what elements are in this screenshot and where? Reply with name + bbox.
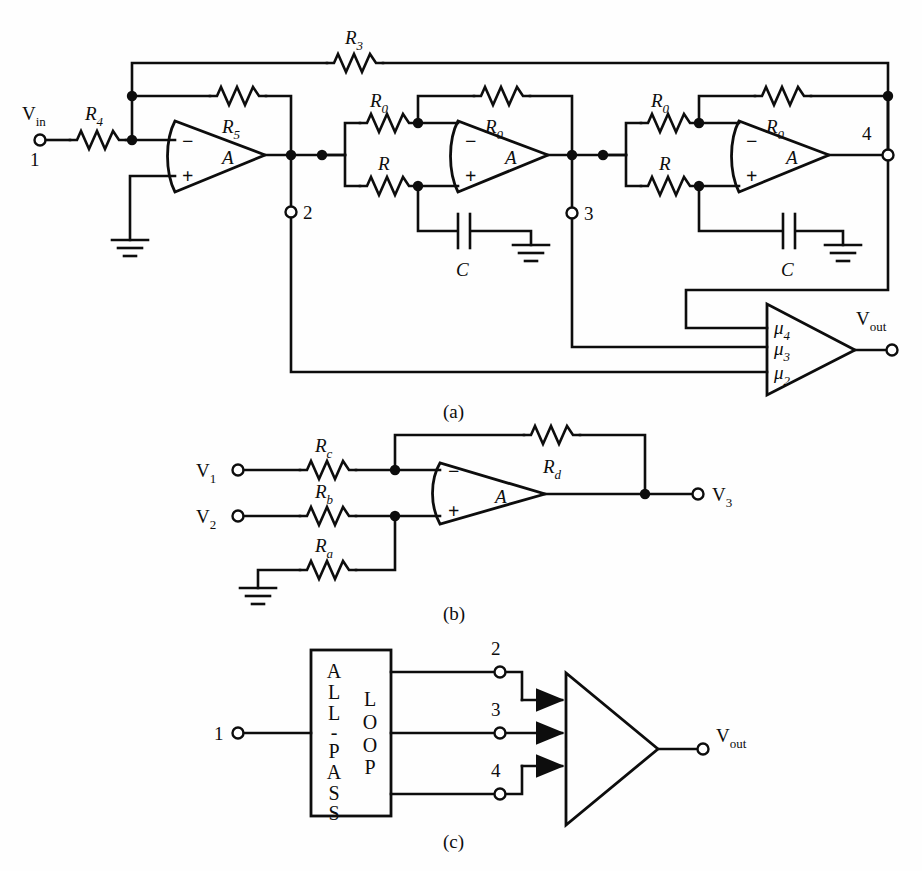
label-node-4-c: 4 [491, 760, 501, 781]
terminal-node-3-c[interactable] [495, 728, 506, 739]
terminal-v3[interactable] [693, 489, 704, 500]
input-branch: Vin 1 R4 [22, 103, 175, 170]
terminal-vout-a[interactable] [887, 345, 898, 356]
label-node-1-c: 1 [214, 723, 224, 744]
caption-a: (a) [443, 401, 464, 423]
label-node-2: 2 [303, 202, 313, 223]
label-opamp-a-b: A [493, 486, 507, 507]
svg-text:L: L [328, 681, 340, 703]
svg-text:A: A [327, 761, 342, 783]
summer-triangle-c [566, 673, 658, 825]
label-vout-a: Vout [856, 308, 887, 334]
caption-c: (c) [443, 831, 464, 853]
label-v2: V2 [196, 506, 216, 532]
opamp-minus-input: − [448, 460, 459, 482]
block-label-loop: L O O P [363, 688, 377, 778]
all-pass-loop-block[interactable] [311, 650, 391, 816]
terminal-vout-c[interactable] [698, 744, 709, 755]
label-node-4: 4 [862, 123, 872, 144]
label-vin: Vin [22, 103, 46, 129]
label-v3: V3 [712, 484, 732, 510]
svg-text:P: P [328, 740, 339, 762]
svg-text:S: S [328, 782, 339, 804]
terminal-v2[interactable] [233, 511, 244, 522]
terminal-v1[interactable] [233, 465, 244, 476]
terminal-node-2[interactable] [286, 207, 297, 218]
opamp-plus-input: + [746, 165, 757, 187]
block-label-all-pass: A L L - P A S S [327, 660, 342, 824]
label-r0-stage3: R0 [650, 90, 670, 116]
label-ra: Ra [314, 535, 334, 561]
terminal-node-4-c[interactable] [495, 789, 506, 800]
ground-symbol-b [240, 588, 276, 604]
ground-symbol-3 [825, 245, 861, 261]
capacitor-c-stage3 [783, 214, 795, 248]
stage-2: R0 R R0 − + A C [322, 87, 626, 280]
label-c-stage2: C [456, 259, 469, 280]
terminal-node-3[interactable] [567, 208, 578, 219]
capacitor-c-stage2 [458, 214, 470, 248]
panel-b: V1 Rc V2 Rb Ra − + A Rd [196, 426, 732, 625]
svg-text:S: S [328, 802, 339, 824]
r5-branch: R5 [127, 87, 291, 155]
stage-3: R0 R R0 − + A C [603, 87, 893, 280]
caption-b: (b) [443, 603, 465, 625]
label-r0-stage2: R0 [369, 90, 389, 116]
label-v1: V1 [196, 460, 216, 486]
svg-text:P: P [364, 756, 375, 778]
label-mu2: μ2 [773, 362, 791, 388]
terminal-node-1-c[interactable] [233, 728, 244, 739]
label-rb: Rb [314, 481, 334, 507]
label-opamp-a: A [784, 147, 798, 168]
label-node-3: 3 [584, 203, 594, 224]
label-vout-c: Vout [716, 725, 747, 751]
label-node-2-c: 2 [491, 638, 501, 659]
label-r-stage2: R [377, 153, 390, 174]
terminal-node-1[interactable] [35, 135, 46, 146]
opamp-minus-input: − [465, 130, 476, 152]
svg-text:O: O [363, 734, 377, 756]
label-r-stage3: R [658, 153, 671, 174]
summing-amplifier: μ4 μ3 μ2 Vout [767, 304, 898, 395]
ground-symbol-2 [513, 245, 549, 261]
opamp-plus-input: + [182, 165, 193, 187]
terminal-node-2-c[interactable] [495, 667, 506, 678]
panel-a: R3 Vin 1 R4 R5 − + A [22, 27, 898, 423]
label-rd: Rd [542, 456, 562, 482]
label-rc: Rc [314, 435, 333, 461]
label-opamp-a: A [220, 147, 234, 168]
ground-symbol-1 [112, 240, 148, 256]
label-node-1: 1 [30, 149, 40, 170]
opamp-minus-input: − [182, 130, 193, 152]
label-node-3-c: 3 [491, 699, 501, 720]
label-opamp-a: A [503, 147, 517, 168]
junction-dot [640, 489, 650, 499]
circuit-diagram-svg: R3 Vin 1 R4 R5 − + A [0, 0, 922, 871]
svg-text:A: A [327, 660, 342, 682]
label-r4: R4 [84, 103, 104, 129]
opamp-plus-input: + [448, 500, 459, 522]
svg-text:L: L [364, 688, 376, 710]
svg-text:O: O [363, 711, 377, 733]
figure-canvas: R3 Vin 1 R4 R5 − + A [0, 0, 922, 871]
label-c-stage3: C [781, 259, 794, 280]
label-r3: R3 [344, 27, 364, 53]
node-4-branch: 4 [686, 96, 894, 328]
opamp-plus-input: + [465, 165, 476, 187]
panel-c: 1 A L L - P A S S L O O P 2 3 [214, 638, 747, 853]
terminal-node-4[interactable] [883, 150, 894, 161]
opamp-minus-input: − [746, 130, 757, 152]
